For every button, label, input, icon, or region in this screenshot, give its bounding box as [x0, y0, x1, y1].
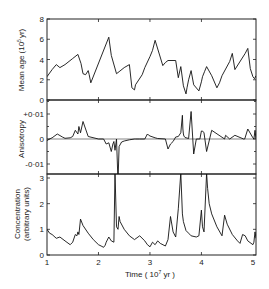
svg-text:Anisotropy: Anisotropy — [17, 120, 26, 158]
mean-age-y-tick-label: 6 — [40, 35, 45, 44]
data-traces — [47, 37, 256, 247]
x-tick-label: 1 — [45, 258, 50, 267]
mean-age-panel-frame — [47, 19, 256, 100]
anisotropy-axis-label: Anisotropy — [17, 120, 26, 158]
mean-age-trace — [47, 37, 256, 94]
concentration-panel-frame — [47, 174, 256, 255]
concentration-y-tick-label: 2 — [40, 200, 45, 209]
anisotropy-y-tick-label: -0·01 — [25, 160, 44, 169]
x-tick-label: 5 — [251, 258, 256, 267]
anisotropy-y-tick-label: +0·01 — [23, 110, 44, 119]
anisotropy-y-tick-label: 0 — [40, 135, 45, 144]
mean-age-y-tick-label: 2 — [40, 76, 45, 85]
x-tick-label: 4 — [199, 258, 204, 267]
svg-text:(arbitrary units): (arbitrary units) — [22, 187, 31, 241]
concentration-axis-label: Concentration (arbitrary units) — [13, 187, 31, 241]
svg-text:Concentration: Concentration — [13, 189, 22, 239]
x-tick-label: 3 — [148, 258, 153, 267]
x-tick-label: 2 — [96, 258, 101, 267]
svg-text:Mean age (105yr): Mean age (105yr) — [16, 28, 26, 91]
three-panel-time-series-chart: 02468-0·010+0·01012312345 Mean age (105y… — [0, 0, 269, 289]
concentration-trace — [47, 173, 256, 247]
mean-age-y-tick-label: 8 — [40, 15, 45, 24]
mean-age-label: Mean age (10 — [17, 41, 26, 91]
mean-age-y-tick-label: 0 — [40, 96, 45, 105]
time-axis-label: Time ( 107 yr ) — [125, 269, 175, 279]
concentration-y-tick-label: 1 — [40, 225, 45, 234]
anisotropy-trace — [47, 112, 256, 182]
concentration-y-tick-label: 3 — [40, 174, 45, 183]
tick-labels: 02468-0·010+0·01012312345 — [23, 15, 255, 267]
mean-age-axis-label: Mean age (105yr) — [16, 28, 26, 91]
mean-age-y-tick-label: 4 — [40, 56, 45, 65]
